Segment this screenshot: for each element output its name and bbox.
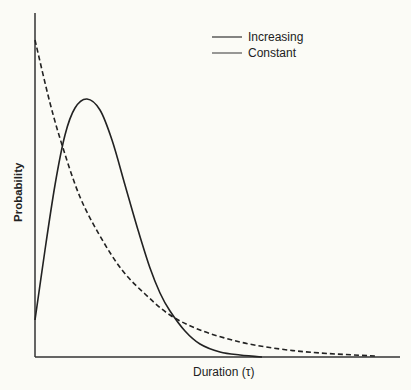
x-axis-label: Duration (τ) [193, 365, 254, 379]
chart-canvas [0, 0, 411, 390]
legend-label-increasing: Increasing [248, 30, 303, 44]
y-axis-label: Probability [12, 163, 24, 222]
increasing-curve [35, 99, 262, 357]
constant-curve [35, 40, 375, 356]
legend-label-constant: Constant [248, 46, 296, 60]
